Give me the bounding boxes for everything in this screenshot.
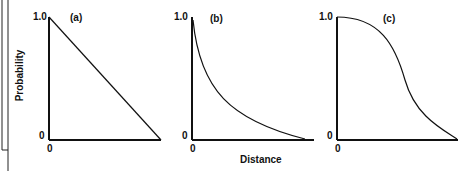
ytick-1-a: 1.0	[33, 11, 47, 22]
panel-b	[192, 17, 314, 140]
panel-a	[49, 17, 161, 140]
ytick-1-b: 1.0	[174, 11, 188, 22]
plots	[0, 0, 475, 171]
xtick-0-a: 0	[47, 143, 53, 154]
label-a: (a)	[70, 12, 82, 23]
y-axis-label: Probability	[14, 50, 25, 102]
label-c: (c)	[383, 13, 395, 24]
x-axis-label: Distance	[240, 154, 282, 165]
ytick-0-b: 0	[182, 130, 188, 141]
label-b: (b)	[210, 13, 223, 24]
panel-c	[337, 17, 458, 140]
ytick-0-a: 0	[39, 130, 45, 141]
ytick-1-c: 1.0	[319, 11, 333, 22]
xtick-0-c: 0	[335, 143, 341, 154]
xtick-0-b: 0	[190, 143, 196, 154]
ytick-0-c: 0	[327, 130, 333, 141]
